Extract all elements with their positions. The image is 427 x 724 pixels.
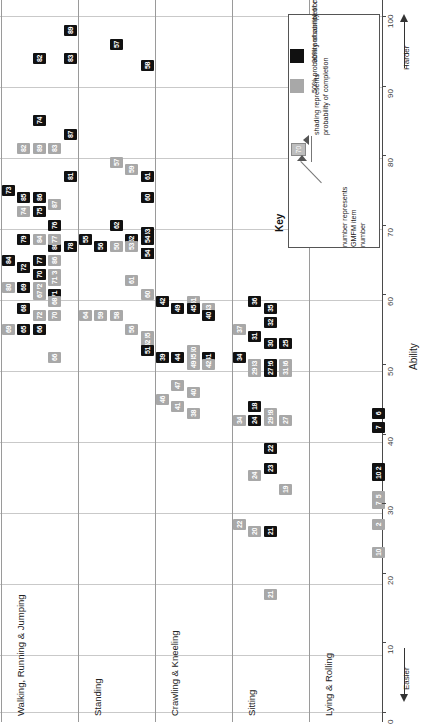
- data-marker[interactable]: 70: [48, 310, 61, 321]
- data-marker[interactable]: 45: [187, 303, 200, 314]
- data-marker[interactable]: 19: [279, 484, 292, 495]
- data-marker[interactable]: 20: [248, 526, 261, 537]
- data-marker[interactable]: 54: [141, 248, 154, 259]
- data-marker[interactable]: 61: [141, 171, 154, 182]
- data-marker[interactable]: 70: [33, 269, 46, 280]
- data-marker[interactable]: 86: [48, 255, 61, 266]
- data-marker[interactable]: 7: [372, 422, 385, 433]
- data-marker[interactable]: 58: [110, 310, 123, 321]
- data-marker[interactable]: 10: [372, 547, 385, 558]
- data-marker[interactable]: 87: [48, 199, 61, 210]
- data-marker[interactable]: 65: [17, 324, 30, 335]
- data-marker[interactable]: 31: [248, 331, 261, 342]
- data-marker[interactable]: 83: [48, 143, 61, 154]
- data-marker[interactable]: 42: [156, 296, 169, 307]
- data-marker[interactable]: 77: [33, 255, 46, 266]
- data-marker[interactable]: 77: [48, 234, 61, 245]
- data-marker[interactable]: 49: [171, 303, 184, 314]
- data-marker[interactable]: 29: [248, 366, 261, 377]
- data-marker[interactable]: 32: [264, 317, 277, 328]
- data-marker[interactable]: 18: [248, 401, 261, 412]
- data-marker[interactable]: 55: [79, 234, 92, 245]
- data-marker[interactable]: 22: [233, 519, 246, 530]
- data-marker[interactable]: 82: [33, 53, 46, 64]
- data-marker[interactable]: 80: [2, 282, 15, 293]
- data-marker[interactable]: 87: [64, 129, 77, 140]
- data-marker[interactable]: 89: [33, 143, 46, 154]
- data-marker[interactable]: 35: [264, 303, 277, 314]
- data-marker[interactable]: 72: [17, 262, 30, 273]
- data-marker[interactable]: 36: [248, 296, 261, 307]
- data-marker[interactable]: 68: [48, 296, 61, 307]
- data-marker[interactable]: 39: [156, 352, 169, 363]
- data-marker[interactable]: 25: [279, 338, 292, 349]
- data-marker[interactable]: 49: [187, 359, 200, 370]
- data-marker[interactable]: 58: [141, 60, 154, 71]
- data-marker[interactable]: 57: [110, 157, 123, 168]
- data-marker[interactable]: 34: [233, 415, 246, 426]
- data-marker[interactable]: 46: [156, 394, 169, 405]
- data-marker[interactable]: 66: [33, 324, 46, 335]
- data-marker[interactable]: 44: [171, 352, 184, 363]
- data-marker[interactable]: 57: [110, 39, 123, 50]
- data-marker[interactable]: 78: [64, 241, 77, 252]
- data-marker[interactable]: 71: [48, 275, 61, 286]
- data-marker[interactable]: 2: [372, 519, 385, 530]
- data-marker[interactable]: 23: [264, 463, 277, 474]
- data-marker[interactable]: 69: [17, 282, 30, 293]
- data-marker[interactable]: 89: [64, 25, 77, 36]
- data-marker[interactable]: 74: [33, 115, 46, 126]
- data-marker[interactable]: 85: [17, 192, 30, 203]
- data-marker[interactable]: 60: [141, 192, 154, 203]
- data-marker[interactable]: 38: [187, 408, 200, 419]
- data-marker[interactable]: 31: [279, 366, 292, 377]
- data-marker[interactable]: 76: [48, 220, 61, 231]
- data-marker[interactable]: 59: [125, 164, 138, 175]
- data-marker[interactable]: 40: [202, 310, 215, 321]
- data-marker[interactable]: 79: [17, 234, 30, 245]
- data-marker[interactable]: 56: [94, 241, 107, 252]
- data-marker[interactable]: 56: [125, 324, 138, 335]
- data-marker[interactable]: 62: [110, 220, 123, 231]
- data-marker[interactable]: 53: [125, 241, 138, 252]
- data-marker[interactable]: 83: [64, 53, 77, 64]
- data-marker[interactable]: 86: [33, 192, 46, 203]
- data-marker[interactable]: 74: [17, 206, 30, 217]
- data-marker-item-number: 84: [33, 234, 46, 245]
- data-marker[interactable]: 40: [187, 387, 200, 398]
- data-marker[interactable]: 21: [264, 589, 277, 600]
- data-marker[interactable]: 73: [2, 185, 15, 196]
- data-marker[interactable]: 84: [2, 255, 15, 266]
- data-marker[interactable]: 30: [264, 338, 277, 349]
- data-marker[interactable]: 42: [202, 359, 215, 370]
- data-marker[interactable]: 66: [48, 352, 61, 363]
- data-marker[interactable]: 59: [94, 310, 107, 321]
- data-marker[interactable]: 82: [17, 143, 30, 154]
- data-marker[interactable]: 21: [264, 526, 277, 537]
- data-marker[interactable]: 60: [141, 289, 154, 300]
- data-marker[interactable]: 41: [171, 401, 184, 412]
- data-marker[interactable]: 51: [141, 345, 154, 356]
- data-marker[interactable]: 64: [79, 310, 92, 321]
- data-marker[interactable]: 54: [141, 234, 154, 245]
- data-marker[interactable]: 10: [372, 470, 385, 481]
- data-marker[interactable]: 61: [125, 275, 138, 286]
- data-marker[interactable]: 69: [2, 324, 15, 335]
- data-marker[interactable]: 37: [233, 324, 246, 335]
- data-marker[interactable]: 27: [264, 366, 277, 377]
- data-marker[interactable]: 47: [171, 380, 184, 391]
- data-marker[interactable]: 68: [17, 303, 30, 314]
- data-marker[interactable]: 34: [233, 352, 246, 363]
- data-marker[interactable]: 29: [264, 415, 277, 426]
- data-marker[interactable]: 50: [110, 241, 123, 252]
- data-marker[interactable]: 72: [33, 310, 46, 321]
- data-marker[interactable]: 24: [248, 415, 261, 426]
- data-marker[interactable]: 22: [264, 443, 277, 454]
- data-marker[interactable]: 81: [64, 171, 77, 182]
- data-marker[interactable]: 67: [33, 289, 46, 300]
- data-marker[interactable]: 24: [248, 470, 261, 481]
- data-marker[interactable]: 27: [279, 415, 292, 426]
- data-marker[interactable]: 75: [33, 206, 46, 217]
- data-marker[interactable]: 84: [33, 234, 46, 245]
- data-marker[interactable]: 6: [372, 408, 385, 419]
